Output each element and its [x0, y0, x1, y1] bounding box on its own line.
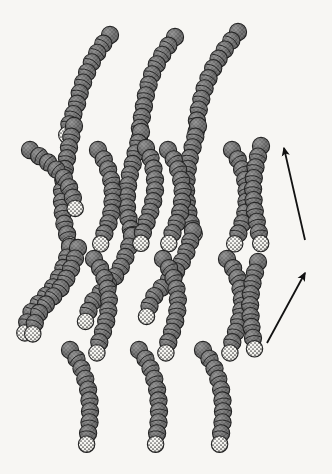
bead-shading: [93, 236, 109, 252]
bead-shading: [246, 341, 262, 357]
bead-shading: [222, 345, 238, 361]
bead-shading: [138, 308, 154, 324]
bead-shading: [158, 345, 174, 361]
bead-shading: [253, 235, 269, 251]
bead-shading: [77, 313, 93, 329]
bead-shading: [67, 200, 83, 216]
figure-canvas: [0, 0, 332, 474]
bead-shading: [147, 436, 163, 452]
bead-shading: [89, 345, 105, 361]
bead-shading: [161, 235, 177, 251]
molecular-assembly-figure: [0, 0, 332, 474]
bead-shading: [25, 326, 41, 342]
bead-shading: [78, 436, 94, 452]
bead-shading: [133, 235, 149, 251]
bead-shading: [227, 236, 243, 252]
bead-shading: [211, 436, 227, 452]
